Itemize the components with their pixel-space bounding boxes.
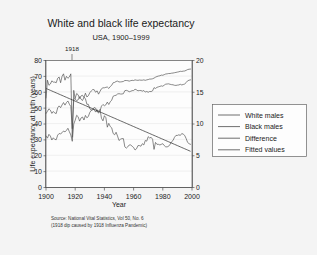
chart-figure: White and black life expectancy USA, 190… — [0, 0, 317, 255]
x-tick-label: 1960 — [126, 193, 142, 200]
x-tick-label: 1940 — [97, 193, 113, 200]
x-axis-title: Year — [112, 201, 127, 208]
life-expectancy-chart: White and black life expectancy USA, 190… — [0, 0, 317, 255]
annotation-1918-label: 1918 — [65, 45, 79, 52]
x-tick-label: 1980 — [155, 193, 171, 200]
legend-item-label: Black males — [245, 123, 283, 130]
source-note-line-1: Source: National Vital Statistics, Vol 5… — [51, 216, 144, 221]
source-note-line-2: (1918 dip caused by 1918 Influenza Pande… — [51, 223, 147, 228]
y2-tick-label: 15 — [196, 89, 204, 96]
chart-subtitle: USA, 1900–1999 — [92, 33, 149, 42]
legend-item-label: White males — [245, 112, 284, 119]
y2-tick-label: 5 — [196, 152, 200, 159]
y-tick-label: 0 — [38, 184, 42, 191]
y2-tick-label: 20 — [196, 57, 204, 64]
x-tick-label: 2000 — [184, 193, 200, 200]
chart-legend[interactable]: White malesBlack malesDifferenceFitted v… — [213, 105, 307, 157]
legend-item-label: Difference — [245, 135, 277, 142]
y-axis-title: Life expectancy at birth (years) — [29, 76, 37, 172]
plot-area — [46, 61, 193, 188]
y-tick-label: 80 — [34, 57, 42, 64]
y2-tick-label: 10 — [196, 120, 204, 127]
x-tick-label: 1920 — [67, 193, 83, 200]
chart-title: White and black life expectancy — [47, 17, 195, 29]
x-tick-label: 1900 — [38, 193, 54, 200]
y2-tick-label: 0 — [196, 184, 200, 191]
legend-item-label: Fitted values — [245, 146, 285, 153]
plot-frame — [46, 61, 193, 188]
